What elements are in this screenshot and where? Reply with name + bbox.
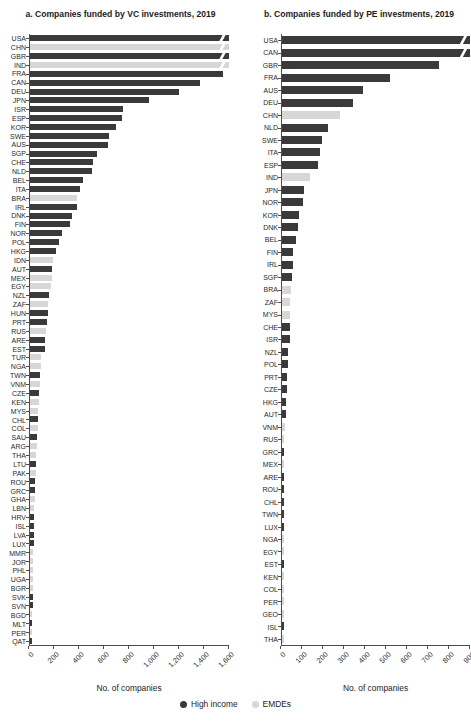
bar-NGA — [30, 363, 41, 369]
bar-HKG — [30, 248, 56, 254]
country-label-GHA: GHA — [2, 496, 29, 505]
bar-BGD — [30, 611, 32, 617]
country-label-BGD: BGD — [2, 611, 29, 620]
bar-TWN — [282, 510, 284, 518]
bar-row-ISR — [282, 333, 470, 345]
country-label-IDN: IDN — [2, 256, 29, 265]
bar-BEL — [282, 236, 296, 244]
bar-row-ITA — [282, 146, 470, 158]
bar-row-HKG — [30, 247, 229, 256]
bar-row-KOR — [30, 123, 229, 132]
country-label-PRT: PRT — [247, 371, 281, 383]
bar-row-MEX — [30, 273, 229, 282]
country-label-MMR: MMR — [2, 549, 29, 558]
bar-row-KOR — [282, 209, 470, 221]
bar-NOR — [282, 198, 303, 206]
bar-row-GBR — [282, 59, 470, 71]
country-label-NGA: NGA — [247, 533, 281, 545]
bar-HKG — [282, 398, 286, 406]
bar-NZL — [30, 292, 49, 298]
country-label-QAT: QAT — [2, 638, 29, 647]
bar-row-IRL — [282, 258, 470, 270]
bar-row-CZE — [282, 383, 470, 395]
bar-EST — [30, 346, 45, 352]
bar-row-ISL — [282, 620, 470, 632]
country-label-DEU: DEU — [2, 87, 29, 96]
bar-row-NOR — [282, 196, 470, 208]
bar-HUN — [30, 310, 48, 316]
bar-NLD — [30, 168, 92, 174]
country-label-CHE: CHE — [2, 158, 29, 167]
bar-row-CHL — [30, 415, 229, 424]
bar-IND — [30, 62, 229, 68]
country-label-SWE: SWE — [2, 132, 29, 141]
bar-IDN — [30, 257, 53, 263]
bar-CHN — [30, 44, 229, 50]
bar-row-PER — [30, 628, 229, 637]
bar-MLT — [30, 620, 32, 626]
bar-row-NLD — [282, 121, 470, 133]
bar-row-SVK — [30, 592, 229, 601]
country-label-ITA: ITA — [247, 146, 281, 158]
bar-HRV — [30, 514, 34, 520]
bar-row-ARE — [30, 335, 229, 344]
bar-THA — [30, 452, 36, 458]
country-label-DEU: DEU — [247, 96, 281, 108]
bar-row-AUS — [282, 84, 470, 96]
country-label-ARE: ARE — [2, 336, 29, 345]
bar-COL — [282, 585, 284, 593]
panel-vc-plotwrap: 02004006008001,0001,2001,4001,600 No. of… — [29, 34, 229, 693]
country-label-POL: POL — [2, 238, 29, 247]
country-label-ITA: ITA — [2, 185, 29, 194]
bar-NGA — [282, 535, 284, 543]
bar-AUS — [30, 142, 108, 148]
bar-row-BRA — [282, 283, 470, 295]
bar-AUS — [282, 86, 363, 94]
country-label-PAK: PAK — [2, 469, 29, 478]
panel-vc-title: a. Companies funded by VC investments, 2… — [2, 0, 239, 34]
country-label-HUN: HUN — [2, 309, 29, 318]
bar-SGP — [282, 273, 292, 281]
bar-row-RUS — [30, 326, 229, 335]
bar-NZL — [282, 348, 288, 356]
bar-NOR — [30, 230, 62, 236]
bar-row-DEU — [30, 87, 229, 96]
country-label-DNK: DNK — [247, 221, 281, 233]
country-label-EGY: EGY — [2, 283, 29, 292]
bar-CHL — [30, 416, 38, 422]
bar-row-DEU — [282, 96, 470, 108]
bar-row-NZL — [282, 346, 470, 358]
country-label-CZE: CZE — [247, 384, 281, 396]
bar-row-HKG — [282, 396, 470, 408]
country-label-POL: POL — [247, 359, 281, 371]
bar-row-FRA — [282, 71, 470, 83]
bar-row-CAN — [282, 46, 470, 58]
country-label-NOR: NOR — [2, 229, 29, 238]
bar-EST — [282, 560, 284, 568]
x-tick-mark — [280, 646, 281, 649]
country-label-IRL: IRL — [247, 259, 281, 271]
bar-FIN — [30, 221, 70, 227]
bar-row-ROU — [30, 477, 229, 486]
bar-ISR — [282, 335, 290, 343]
bar-row-BEL — [30, 176, 229, 185]
country-label-FIN: FIN — [247, 246, 281, 258]
bar-row-IDN — [30, 255, 229, 264]
bar-row-JPN — [282, 184, 470, 196]
bar-row-IRL — [30, 202, 229, 211]
bar-row-THA — [282, 633, 470, 645]
country-label-GBR: GBR — [2, 52, 29, 61]
bar-row-ESP — [282, 159, 470, 171]
x-tick-mark — [178, 646, 179, 649]
bar-row-GBR — [30, 52, 229, 61]
country-label-EST: EST — [247, 558, 281, 570]
bar-row-ARE — [282, 470, 470, 482]
bar-row-USA — [30, 34, 229, 43]
bar-USA — [30, 35, 229, 41]
country-label-BRA: BRA — [2, 194, 29, 203]
country-label-VNM: VNM — [2, 380, 29, 389]
panel-vc-x-axis-title: No. of companies — [29, 683, 229, 693]
country-label-IND: IND — [247, 171, 281, 183]
bar-IRL — [282, 261, 293, 269]
bar-CHN — [282, 111, 340, 119]
